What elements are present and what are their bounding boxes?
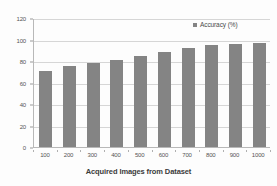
y-tick-label: 40 bbox=[20, 102, 26, 108]
x-tick-label: 100 bbox=[40, 152, 49, 158]
x-tick-mark bbox=[175, 150, 176, 152]
bar bbox=[158, 52, 171, 147]
y-tick-label: 80 bbox=[20, 59, 26, 65]
x-tick-label: 300 bbox=[88, 152, 97, 158]
bars-group bbox=[34, 19, 270, 147]
bar bbox=[134, 56, 147, 147]
x-tick-label: 400 bbox=[111, 152, 120, 158]
x-tick-mark bbox=[152, 150, 153, 152]
bar-chart: 020406080100120 100200300400500600700800… bbox=[0, 0, 277, 186]
bar bbox=[229, 44, 242, 147]
x-tick-label: 800 bbox=[206, 152, 215, 158]
bar bbox=[253, 43, 266, 147]
x-axis-title: Acquired Images from Dataset bbox=[0, 167, 277, 176]
y-tick-label: 100 bbox=[17, 38, 26, 44]
x-tick-mark bbox=[57, 150, 58, 152]
gridline bbox=[34, 148, 270, 149]
bar bbox=[182, 48, 195, 147]
legend-swatch-icon bbox=[193, 23, 197, 27]
plot-area bbox=[33, 19, 270, 148]
y-axis: 020406080100120 bbox=[0, 0, 31, 186]
x-tick-label: 900 bbox=[230, 152, 239, 158]
chart-legend: Accuracy (%) bbox=[193, 21, 237, 28]
bar bbox=[39, 71, 52, 147]
x-tick-mark bbox=[246, 150, 247, 152]
x-tick-label: 700 bbox=[182, 152, 191, 158]
x-tick-mark bbox=[104, 150, 105, 152]
x-tick-mark bbox=[199, 150, 200, 152]
x-axis: 1002003004005006007008009001000 bbox=[33, 150, 270, 162]
x-tick-mark bbox=[33, 150, 34, 152]
y-tick-label: 20 bbox=[20, 124, 26, 130]
y-tick-label: 60 bbox=[20, 81, 26, 87]
bar bbox=[87, 63, 100, 147]
x-tick-mark bbox=[270, 150, 271, 152]
bar bbox=[205, 45, 218, 147]
x-tick-label: 500 bbox=[135, 152, 144, 158]
y-tick-label: 120 bbox=[17, 16, 26, 22]
bar bbox=[110, 60, 123, 147]
x-tick-label: 1000 bbox=[252, 152, 265, 158]
x-tick-label: 200 bbox=[64, 152, 73, 158]
bar bbox=[63, 66, 76, 147]
y-tick-label: 0 bbox=[23, 145, 26, 151]
x-tick-mark bbox=[223, 150, 224, 152]
x-tick-mark bbox=[80, 150, 81, 152]
x-tick-label: 600 bbox=[159, 152, 168, 158]
x-tick-mark bbox=[128, 150, 129, 152]
legend-label: Accuracy (%) bbox=[200, 21, 237, 28]
